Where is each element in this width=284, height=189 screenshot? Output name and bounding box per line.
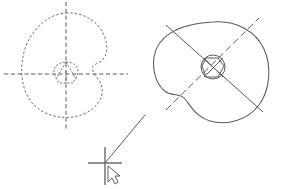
left-figure-outline[interactable]	[22, 13, 107, 118]
pick-marker-leader-line[interactable]	[105, 115, 145, 163]
mouse-pointer-icon[interactable]	[108, 166, 120, 184]
right-figure-group[interactable]	[154, 18, 269, 123]
pick-marker-group[interactable]	[88, 115, 145, 185]
vector-drawing-surface[interactable]	[0, 0, 284, 189]
right-figure-outline[interactable]	[154, 22, 269, 123]
left-figure-group[interactable]	[4, 2, 128, 131]
drawing-canvas[interactable]	[0, 0, 284, 189]
right-figure-hub[interactable]	[201, 55, 225, 79]
